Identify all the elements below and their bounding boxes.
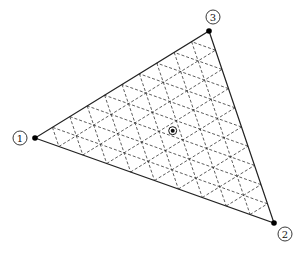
- vertex-label-1: 1: [17, 133, 23, 144]
- vertex-node-2: [271, 220, 277, 226]
- centroid-marker-icon: [169, 127, 177, 135]
- grid-line: [107, 89, 229, 164]
- grid-line: [157, 63, 203, 197]
- grid-line: [155, 127, 242, 181]
- grid-line: [59, 50, 216, 146]
- grid-line: [174, 52, 222, 69]
- grid-line: [131, 108, 235, 172]
- grid-line: [52, 127, 59, 146]
- grid-line: [202, 165, 254, 197]
- grid-line: [105, 95, 248, 146]
- grid-line: [192, 42, 216, 51]
- grid-line: [157, 63, 229, 89]
- grid-line: [105, 95, 131, 172]
- triangle-diagram: 123: [0, 0, 306, 254]
- vertex-node-3: [206, 28, 212, 34]
- triangle-outline: [35, 31, 274, 223]
- grid-line: [250, 204, 267, 215]
- grid-line: [70, 117, 83, 155]
- vertex-label-2: 2: [282, 229, 288, 240]
- grid-line: [226, 185, 261, 206]
- grid-line: [87, 106, 254, 165]
- vertex-node-1: [32, 135, 38, 141]
- grid-line: [178, 146, 248, 189]
- dashed-grid-lines: [52, 42, 267, 215]
- grid-line: [122, 85, 242, 128]
- grid-line: [87, 106, 107, 164]
- vertex-label-3: 3: [210, 12, 216, 23]
- grid-line: [122, 85, 155, 181]
- grid-line: [139, 74, 235, 108]
- grid-line: [52, 127, 267, 204]
